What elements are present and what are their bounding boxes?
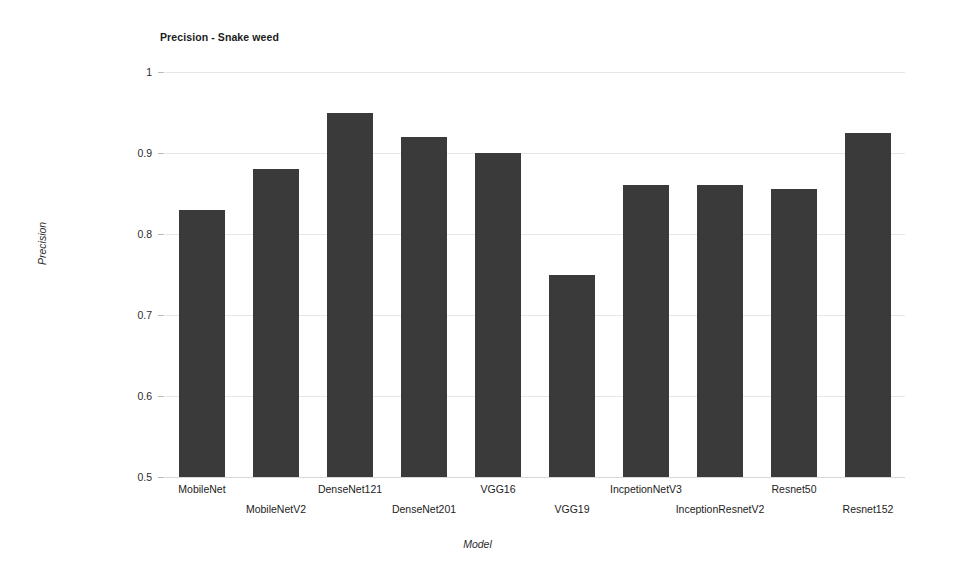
x-axis-tick-label: MobileNetV2 [246,503,306,515]
x-axis-tick-label: DenseNet121 [318,483,382,495]
bar[interactable] [179,210,225,477]
y-axis-tick-label: 0.5 [137,471,152,483]
x-axis-title: Model [0,538,955,550]
bar[interactable] [697,185,743,477]
y-axis-tick-label: 0.9 [137,147,152,159]
y-axis-tick [158,72,164,73]
y-axis-tick-label: 0.6 [137,390,152,402]
chart-page: Precision - Snake weed Precision 0.50.60… [0,0,955,570]
bars-group [165,72,905,477]
bar[interactable] [475,153,521,477]
y-axis-tick [158,153,164,154]
y-axis-tick [158,234,164,235]
plot-area: 0.50.60.70.80.91 [165,72,905,477]
y-axis-tick [158,477,164,478]
x-axis-tick-label: DenseNet201 [392,503,456,515]
y-axis-tick-label: 0.8 [137,228,152,240]
y-axis-title: Precision [36,222,48,265]
bar[interactable] [845,133,891,477]
bar[interactable] [327,113,373,478]
y-axis-tick [158,396,164,397]
x-axis-tick-label: Resnet152 [843,503,894,515]
x-axis-tick-label: InceptionResnetV2 [676,503,765,515]
y-axis-tick [158,315,164,316]
bar[interactable] [549,275,595,478]
y-axis-tick-label: 0.7 [137,309,152,321]
bar[interactable] [623,185,669,477]
bar[interactable] [253,169,299,477]
gridline [165,477,905,478]
bar[interactable] [771,189,817,477]
chart-title: Precision - Snake weed [160,31,279,43]
x-axis-tick-label: VGG16 [480,483,515,495]
x-axis-tick-label: VGG19 [554,503,589,515]
x-axis-tick-label: IncpetionNetV3 [610,483,682,495]
y-axis-tick-label: 1 [146,66,152,78]
x-axis-tick-label: Resnet50 [772,483,817,495]
bar[interactable] [401,137,447,477]
x-axis-tick-label: MobileNet [178,483,225,495]
